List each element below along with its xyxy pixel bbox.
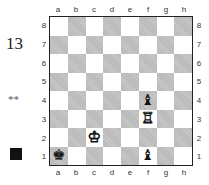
square-e1[interactable] — [121, 147, 139, 166]
square-e7[interactable] — [121, 36, 139, 55]
square-c2[interactable]: ♔ — [86, 128, 104, 147]
rank-label-1: 1 — [40, 152, 48, 161]
square-d4[interactable] — [103, 91, 121, 110]
rank-label-5: 5 — [40, 77, 48, 86]
file-label-b: b — [67, 168, 85, 177]
square-a8[interactable] — [50, 17, 68, 36]
square-c1[interactable] — [86, 147, 104, 166]
black-bishop-icon[interactable]: ♝ — [141, 93, 154, 108]
square-a5[interactable] — [50, 73, 68, 92]
file-label-d: d — [103, 5, 121, 14]
square-a4[interactable] — [50, 91, 68, 110]
square-b1[interactable] — [68, 147, 86, 166]
square-g6[interactable] — [157, 54, 175, 73]
black-king-icon[interactable]: ♚ — [52, 148, 65, 163]
chess-board: ♝♖♔♚♝ — [49, 16, 193, 166]
square-d6[interactable] — [103, 54, 121, 73]
square-e8[interactable] — [121, 17, 139, 36]
file-label-h: h — [175, 168, 193, 177]
square-f2[interactable] — [139, 128, 157, 147]
square-c6[interactable] — [86, 54, 104, 73]
file-label-c: c — [85, 5, 103, 14]
square-h7[interactable] — [174, 36, 192, 55]
square-d7[interactable] — [103, 36, 121, 55]
square-g8[interactable] — [157, 17, 175, 36]
square-c5[interactable] — [86, 73, 104, 92]
rank-label-8: 8 — [195, 21, 203, 30]
file-label-a: a — [49, 5, 67, 14]
square-a3[interactable] — [50, 110, 68, 129]
file-label-b: b — [67, 5, 85, 14]
rank-label-3: 3 — [195, 115, 203, 124]
square-g2[interactable] — [157, 128, 175, 147]
square-c3[interactable] — [86, 110, 104, 129]
file-label-h: h — [175, 5, 193, 14]
square-a2[interactable] — [50, 128, 68, 147]
square-a1[interactable]: ♚ — [50, 147, 68, 166]
square-d3[interactable] — [103, 110, 121, 129]
square-f5[interactable] — [139, 73, 157, 92]
square-e6[interactable] — [121, 54, 139, 73]
file-label-c: c — [85, 168, 103, 177]
square-g5[interactable] — [157, 73, 175, 92]
square-b7[interactable] — [68, 36, 86, 55]
file-label-f: f — [139, 5, 157, 14]
square-f3[interactable]: ♖ — [139, 110, 157, 129]
square-d8[interactable] — [103, 17, 121, 36]
square-f7[interactable] — [139, 36, 157, 55]
square-a6[interactable] — [50, 54, 68, 73]
square-g7[interactable] — [157, 36, 175, 55]
difficulty-rating: ** — [8, 93, 19, 105]
white-rook-icon[interactable]: ♖ — [141, 111, 154, 126]
square-e5[interactable] — [121, 73, 139, 92]
file-label-g: g — [157, 5, 175, 14]
square-d5[interactable] — [103, 73, 121, 92]
square-e3[interactable] — [121, 110, 139, 129]
rank-label-4: 4 — [195, 96, 203, 105]
file-label-e: e — [121, 168, 139, 177]
black-bishop-icon[interactable]: ♝ — [141, 148, 154, 163]
square-e4[interactable] — [121, 91, 139, 110]
square-g4[interactable] — [157, 91, 175, 110]
square-g3[interactable] — [157, 110, 175, 129]
file-label-g: g — [157, 168, 175, 177]
square-c4[interactable] — [86, 91, 104, 110]
square-b8[interactable] — [68, 17, 86, 36]
square-f8[interactable] — [139, 17, 157, 36]
rank-label-7: 7 — [195, 40, 203, 49]
rank-label-5: 5 — [195, 77, 203, 86]
square-b5[interactable] — [68, 73, 86, 92]
square-h8[interactable] — [174, 17, 192, 36]
square-c8[interactable] — [86, 17, 104, 36]
square-h5[interactable] — [174, 73, 192, 92]
square-h3[interactable] — [174, 110, 192, 129]
square-e2[interactable] — [121, 128, 139, 147]
file-label-f: f — [139, 168, 157, 177]
square-d1[interactable] — [103, 147, 121, 166]
square-a7[interactable] — [50, 36, 68, 55]
square-c7[interactable] — [86, 36, 104, 55]
file-label-a: a — [49, 168, 67, 177]
square-f1[interactable]: ♝ — [139, 147, 157, 166]
square-h6[interactable] — [174, 54, 192, 73]
white-king-icon[interactable]: ♔ — [88, 130, 101, 145]
rank-label-8: 8 — [40, 21, 48, 30]
square-g1[interactable] — [157, 147, 175, 166]
file-label-e: e — [121, 5, 139, 14]
rank-label-2: 2 — [40, 134, 48, 143]
rank-label-2: 2 — [195, 134, 203, 143]
square-h1[interactable] — [174, 147, 192, 166]
square-b2[interactable] — [68, 128, 86, 147]
square-b6[interactable] — [68, 54, 86, 73]
square-b3[interactable] — [68, 110, 86, 129]
square-h4[interactable] — [174, 91, 192, 110]
square-f6[interactable] — [139, 54, 157, 73]
rank-label-6: 6 — [40, 59, 48, 68]
square-h2[interactable] — [174, 128, 192, 147]
square-d2[interactable] — [103, 128, 121, 147]
file-label-d: d — [103, 168, 121, 177]
side-to-move-indicator — [10, 148, 22, 160]
rank-label-6: 6 — [195, 59, 203, 68]
square-f4[interactable]: ♝ — [139, 91, 157, 110]
square-b4[interactable] — [68, 91, 86, 110]
